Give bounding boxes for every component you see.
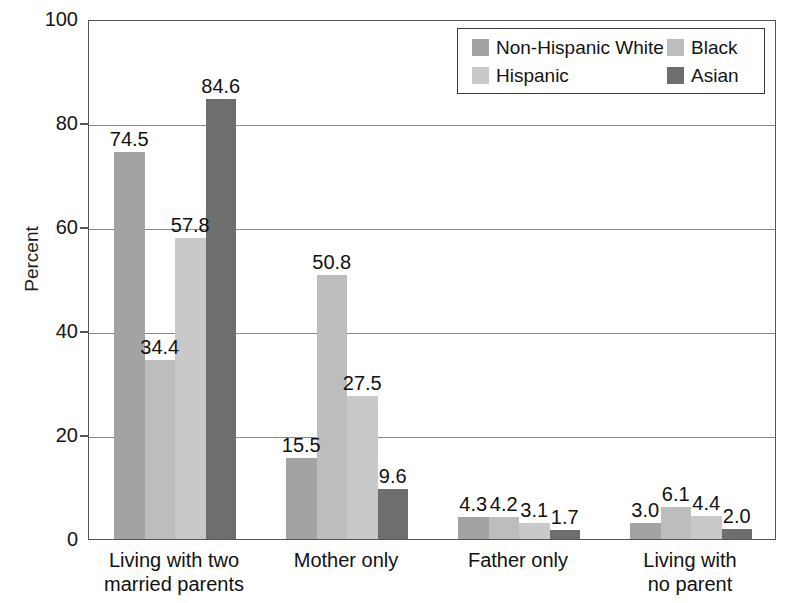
bar-value-label: 74.5 bbox=[89, 129, 169, 149]
y-tick-mark bbox=[80, 435, 88, 437]
legend-swatch-icon bbox=[472, 67, 489, 84]
y-tick-label: 60 bbox=[26, 217, 78, 237]
y-tick-label: 80 bbox=[26, 113, 78, 133]
y-tick-label: 20 bbox=[26, 425, 78, 445]
bar-chart: Percent 020406080100 74.534.457.884.615.… bbox=[0, 0, 787, 603]
gridline bbox=[89, 125, 775, 126]
legend-item-hispanic: Hispanic bbox=[472, 66, 569, 85]
bar-value-label: 1.7 bbox=[525, 507, 605, 527]
legend-swatch-icon bbox=[667, 39, 684, 56]
bar bbox=[175, 238, 206, 539]
legend-item-black: Black bbox=[667, 38, 737, 57]
legend-label: Asian bbox=[691, 66, 739, 85]
y-tick-label: 0 bbox=[26, 529, 78, 549]
chart-legend: Non-Hispanic White Black Hispanic Asian bbox=[457, 28, 765, 94]
bar-value-label: 50.8 bbox=[292, 252, 372, 272]
legend-label: Non-Hispanic White bbox=[496, 38, 664, 57]
y-tick-label: 100 bbox=[26, 9, 78, 29]
y-tick-mark bbox=[80, 123, 88, 125]
bar bbox=[722, 529, 753, 539]
legend-label: Hispanic bbox=[496, 66, 569, 85]
bar bbox=[145, 360, 176, 539]
y-tick-mark bbox=[80, 331, 88, 333]
bar-value-label: 15.5 bbox=[261, 435, 341, 455]
y-tick-mark bbox=[80, 227, 88, 229]
legend-swatch-icon bbox=[472, 39, 489, 56]
legend-item-asian: Asian bbox=[667, 66, 739, 85]
bar bbox=[458, 517, 489, 539]
y-axis-title: Percent bbox=[21, 189, 43, 329]
plot-area: 74.534.457.884.615.550.827.59.64.34.23.1… bbox=[88, 20, 776, 540]
bar bbox=[630, 523, 661, 539]
legend-item-non-hispanic-white: Non-Hispanic White bbox=[472, 38, 664, 57]
bar-value-label: 2.0 bbox=[697, 506, 777, 526]
bar bbox=[206, 99, 237, 539]
legend-row-1: Non-Hispanic White Black bbox=[468, 35, 756, 63]
legend-swatch-icon bbox=[667, 67, 684, 84]
bar bbox=[317, 275, 348, 539]
bar-value-label: 9.6 bbox=[353, 466, 433, 486]
y-tick-label: 40 bbox=[26, 321, 78, 341]
bar bbox=[550, 530, 581, 539]
bar bbox=[378, 489, 409, 539]
legend-row-2: Hispanic Asian bbox=[468, 63, 756, 91]
bar-value-label: 27.5 bbox=[322, 373, 402, 393]
x-axis-category-label: Living with no parent bbox=[580, 549, 787, 596]
bar-value-label: 57.8 bbox=[150, 215, 230, 235]
bar bbox=[286, 458, 317, 539]
legend-label: Black bbox=[691, 38, 737, 57]
bar bbox=[489, 517, 520, 539]
bar-value-label: 84.6 bbox=[181, 76, 261, 96]
bar-value-label: 34.4 bbox=[120, 337, 200, 357]
